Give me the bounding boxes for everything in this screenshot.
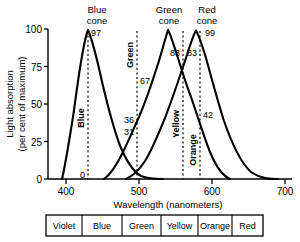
strip-label-green: Green (129, 221, 154, 231)
y-tick-0: 0 (36, 174, 42, 185)
band-label-yellow: Yellow (171, 109, 181, 138)
value-orange-83: 83 (187, 48, 197, 58)
x-tick-500: 500 (131, 186, 148, 197)
y-tick-25: 25 (31, 137, 43, 148)
figure-container: 100 75 50 25 0 Light absorption (per cen… (0, 0, 300, 242)
cone-label-red-line1: Red (198, 4, 215, 15)
y-axis-title-line1: Light absorption (4, 70, 15, 138)
band-label-green: Green (125, 42, 135, 68)
y-axis (44, 29, 48, 179)
cone-absorption-chart: 100 75 50 25 0 Light absorption (per cen… (0, 0, 300, 242)
value-cross-36: 36 (124, 115, 134, 125)
strip-label-orange: Orange (200, 221, 230, 231)
strip-label-red: Red (239, 221, 256, 231)
y-tick-50: 50 (31, 99, 43, 110)
curve-red-cone (126, 31, 278, 180)
cone-label-red-line2: cone (197, 15, 218, 26)
value-orange-42: 42 (203, 110, 213, 120)
x-tick-700: 700 (277, 186, 294, 197)
y-tick-75: 75 (31, 62, 43, 73)
band-label-orange: Orange (188, 134, 198, 166)
strip-label-violet: Violet (53, 221, 76, 231)
x-axis-title: Wavelength (nanometers) (114, 199, 223, 210)
value-yellow-83: 83 (170, 48, 180, 58)
cone-label-blue-line1: Blue (87, 4, 106, 15)
color-strip (46, 215, 263, 236)
x-tick-400: 400 (58, 186, 75, 197)
value-red-peak: 99 (205, 28, 215, 38)
value-blue-zero: 0 (80, 170, 85, 180)
value-blue-peak: 97 (91, 28, 101, 38)
band-label-blue: Blue (76, 108, 86, 128)
value-green-67: 67 (140, 76, 150, 86)
strip-label-blue: Blue (93, 221, 111, 231)
strip-label-yellow: Yellow (167, 221, 193, 231)
y-axis-title-line2: (per cent of maximum) (16, 56, 27, 151)
value-cross-31: 31 (124, 127, 134, 137)
curve-green-cone (104, 30, 230, 179)
cone-label-blue-line2: cone (87, 15, 108, 26)
x-tick-600: 600 (204, 186, 221, 197)
cone-label-green-line2: cone (159, 15, 180, 26)
cone-label-green-line1: Green (156, 4, 182, 15)
y-tick-100: 100 (25, 24, 42, 35)
